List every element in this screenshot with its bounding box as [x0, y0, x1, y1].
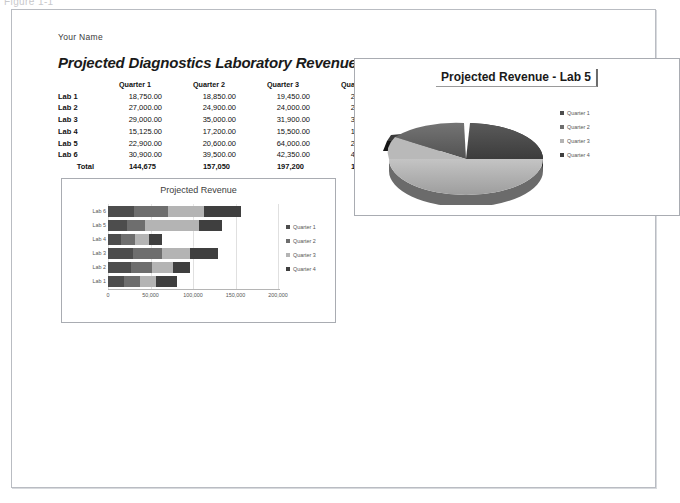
- bar-chart-gridline: [278, 204, 279, 289]
- bar-chart-segment[interactable]: [108, 220, 127, 231]
- table-cell-q3: 19,450.00: [246, 92, 320, 104]
- table-cell-lab: Lab 4: [58, 127, 98, 139]
- bar-chart-segment[interactable]: [108, 234, 121, 245]
- table-cell-q1: 27,000.00: [98, 103, 172, 115]
- table-cell-q2: 17,200.00: [172, 127, 246, 139]
- pie-chart[interactable]: Projected Revenue - Lab 5: [354, 58, 680, 216]
- table-cell-q3: 24,000.00: [246, 103, 320, 115]
- bar-chart-legend: Quarter 1Quarter 2Quarter 3Quarter 4: [286, 224, 316, 280]
- table-total-q3: 197,200: [246, 162, 320, 174]
- bar-chart-segment[interactable]: [127, 220, 145, 231]
- table-cell-q2: 39,500.00: [172, 150, 246, 162]
- bar-chart-category-label: Lab 6: [68, 208, 106, 214]
- bar-chart-x-tick: 100,000: [178, 292, 208, 298]
- pie-chart-graphic: [371, 95, 561, 205]
- bar-chart-legend-item[interactable]: Quarter 4: [286, 266, 316, 272]
- table-corner-header: [58, 80, 98, 92]
- table-cell-lab: Lab 3: [58, 115, 98, 127]
- bar-chart-segment[interactable]: [152, 262, 172, 273]
- legend-swatch-icon: [286, 267, 290, 271]
- bar-chart-segment[interactable]: [108, 262, 131, 273]
- bar-chart-category-label: Lab 1: [68, 278, 106, 284]
- legend-swatch-icon: [286, 225, 290, 229]
- bar-chart-bar-cap: [110, 218, 224, 220]
- bar-chart-category-label: Lab 4: [68, 236, 106, 242]
- bar-chart-category-label: Lab 2: [68, 264, 106, 270]
- table-cell-q1: 22,900.00: [98, 139, 172, 151]
- bar-chart-gridline: [236, 204, 237, 289]
- bar-chart-legend-item[interactable]: Quarter 3: [286, 252, 316, 258]
- bar-chart-category-label: Lab 5: [68, 222, 106, 228]
- table-cell-q1: 30,900.00: [98, 150, 172, 162]
- pie-chart-title: Projected Revenue - Lab 5: [436, 69, 598, 87]
- bar-chart-x-tick: 150,000: [221, 292, 251, 298]
- table-cell-q2: 35,000.00: [172, 115, 246, 127]
- bar-chart-segment[interactable]: [145, 220, 199, 231]
- pie-chart-legend-item[interactable]: Quarter 2: [560, 124, 590, 130]
- document-page: Your Name Projected Diagnostics Laborato…: [11, 9, 656, 488]
- pie-chart-legend-item[interactable]: Quarter 3: [560, 138, 590, 144]
- legend-swatch-icon: [286, 253, 290, 257]
- window-caption: Figure 1-1: [4, 0, 54, 7]
- author-line: Your Name: [58, 32, 103, 42]
- bar-chart-legend-label: Quarter 1: [293, 224, 316, 230]
- table-header-quarter-1: Quarter 1: [98, 80, 172, 92]
- pie-chart-legend-item[interactable]: Quarter 4: [560, 152, 590, 158]
- table-total-label: Total: [58, 162, 98, 174]
- bar-chart-segment[interactable]: [121, 234, 136, 245]
- table-cell-q3: 64,000.00: [246, 139, 320, 151]
- bar-chart-segment[interactable]: [108, 276, 124, 287]
- table-header-quarter-3: Quarter 3: [246, 80, 320, 92]
- table-cell-q3: 15,500.00: [246, 127, 320, 139]
- legend-swatch-icon: [560, 139, 564, 143]
- table-cell-q2: 20,600.00: [172, 139, 246, 151]
- pie-chart-legend-label: Quarter 3: [567, 138, 590, 144]
- bar-chart-bar-cap: [110, 274, 179, 276]
- table-cell-q1: 18,750.00: [98, 92, 172, 104]
- bar-chart-segment[interactable]: [131, 262, 152, 273]
- bar-chart-segment[interactable]: [173, 262, 190, 273]
- bar-chart-plot-area: [108, 204, 278, 289]
- legend-swatch-icon: [286, 239, 290, 243]
- bar-chart-segment[interactable]: [108, 206, 134, 217]
- table-total-q2: 157,050: [172, 162, 246, 174]
- bar-chart-segment[interactable]: [190, 248, 219, 259]
- bar-chart-x-tick: 50,000: [136, 292, 166, 298]
- bar-chart-segment[interactable]: [140, 276, 157, 287]
- bar-chart-segment[interactable]: [134, 206, 168, 217]
- bar-chart-segment[interactable]: [149, 234, 163, 245]
- bar-chart-x-axis: [108, 289, 280, 290]
- bar-chart-segment[interactable]: [168, 206, 204, 217]
- bar-chart-bar-cap: [110, 260, 192, 262]
- pie-chart-legend-item[interactable]: Quarter 1: [560, 110, 590, 116]
- bar-chart-category-label: Lab 3: [68, 250, 106, 256]
- window-caption-strip: Figure 1-1: [0, 0, 671, 9]
- bar-chart-bar-cap: [110, 246, 220, 248]
- legend-swatch-icon: [560, 111, 564, 115]
- bar-chart-title: Projected Revenue: [62, 185, 335, 195]
- bar-chart-segment[interactable]: [162, 248, 189, 259]
- bar-chart-segment[interactable]: [204, 206, 241, 217]
- bar-chart[interactable]: Projected Revenue Lab 1Lab 2Lab 3Lab 4La…: [61, 178, 336, 323]
- table-total-q1: 144,675: [98, 162, 172, 174]
- bar-chart-legend-label: Quarter 4: [293, 266, 316, 272]
- table-cell-lab: Lab 6: [58, 150, 98, 162]
- legend-swatch-icon: [560, 125, 564, 129]
- table-cell-lab: Lab 5: [58, 139, 98, 151]
- bar-chart-legend-item[interactable]: Quarter 2: [286, 238, 316, 244]
- table-cell-q2: 18,850.00: [172, 92, 246, 104]
- bar-chart-segment[interactable]: [108, 248, 133, 259]
- bar-chart-legend-item[interactable]: Quarter 1: [286, 224, 316, 230]
- bar-chart-segment[interactable]: [135, 234, 148, 245]
- bar-chart-segment[interactable]: [199, 220, 222, 231]
- bar-chart-segment[interactable]: [124, 276, 140, 287]
- page-title: Projected Diagnostics Laboratory Revenue: [58, 54, 357, 71]
- table-cell-q2: 24,900.00: [172, 103, 246, 115]
- table-cell-q3: 31,900.00: [246, 115, 320, 127]
- legend-swatch-icon: [560, 153, 564, 157]
- bar-chart-segment[interactable]: [156, 276, 176, 287]
- bar-chart-bar-cap: [110, 232, 164, 234]
- bar-chart-legend-label: Quarter 3: [293, 252, 316, 258]
- bar-chart-segment[interactable]: [133, 248, 163, 259]
- pie-chart-legend: Quarter 1Quarter 2Quarter 3Quarter 4: [560, 110, 590, 166]
